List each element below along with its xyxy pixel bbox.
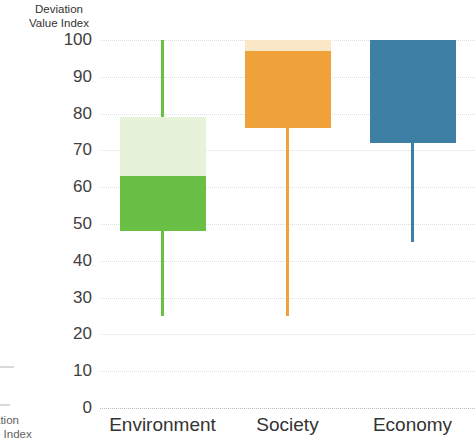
edge-tick-mark-lower [0, 404, 10, 406]
y-tick-label: 30 [46, 289, 92, 306]
y-tick-label: 50 [46, 215, 92, 232]
y-tick-label: 0 [46, 399, 92, 416]
y-tick-label: 20 [46, 325, 92, 342]
box-segment-lower [120, 176, 206, 231]
y-tick-label: 40 [46, 252, 92, 269]
y-tick-label: 60 [46, 178, 92, 195]
box-body [370, 40, 456, 143]
box-segment-upper [120, 117, 206, 176]
y-tick-label: 90 [46, 68, 92, 85]
y-axis-tick-labels: 1009080706050403020100 [36, 40, 92, 408]
y-tick-label: 80 [46, 105, 92, 122]
box-segment-lower [245, 51, 331, 128]
plot-area [100, 40, 475, 408]
box-body [120, 117, 206, 231]
x-category-label: Economy [350, 412, 475, 438]
edge-tick-mark-upper [0, 366, 14, 368]
y-axis-title: Deviation Value Index [14, 3, 104, 30]
x-category-label: Society [225, 412, 350, 438]
box-segment-lower [370, 40, 456, 143]
y-tick-label: 100 [46, 31, 92, 48]
axis-baseline [100, 408, 475, 409]
box-plot-series [245, 40, 331, 408]
x-category-label: Environment [100, 412, 225, 438]
box-segment-upper [245, 40, 331, 51]
box-body [245, 40, 331, 128]
y-tick-label: 70 [46, 141, 92, 158]
x-axis-category-labels: EnvironmentSocietyEconomy [100, 412, 475, 443]
y-tick-label: 10 [46, 362, 92, 379]
box-plot-series [370, 40, 456, 408]
cropped-neighbour-axis-title: ation e Index [0, 414, 74, 441]
box-plot-chart: Deviation Value Index ation e Index 1009… [0, 0, 475, 443]
box-plot-series [120, 40, 206, 408]
